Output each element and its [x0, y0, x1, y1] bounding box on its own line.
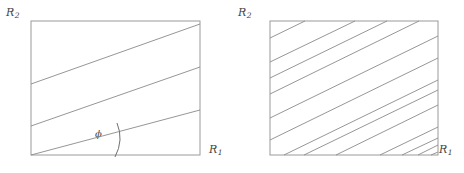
stripe-line — [270, 21, 419, 94]
stripe-line — [270, 21, 355, 62]
panel-right: R2 R1 — [232, 0, 464, 173]
boundary-rect-right — [270, 21, 438, 155]
boundary-rect-left — [31, 21, 200, 155]
stripe-line — [270, 36, 438, 118]
angle-arc-phi — [115, 123, 120, 157]
stripe-line — [284, 80, 438, 155]
stripe-line — [380, 127, 438, 155]
stripe-lines-right — [270, 21, 438, 155]
stripe-line — [270, 58, 438, 140]
stripe-line — [304, 90, 438, 155]
stripe-line — [270, 21, 305, 38]
figure-two-panel-stripe-diagram: R2 R1 ϕ R2 R1 — [0, 0, 464, 173]
stripe-lines-left — [31, 24, 200, 155]
panel-right-canvas — [232, 0, 464, 173]
stripe-line — [336, 105, 438, 155]
panel-left-canvas — [0, 0, 232, 173]
stripe-line — [31, 24, 200, 84]
panel-left: R2 R1 ϕ — [0, 0, 232, 173]
stripe-line — [402, 138, 438, 155]
